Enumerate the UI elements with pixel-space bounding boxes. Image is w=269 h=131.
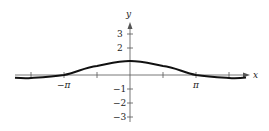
y-tick-label-3: 3 <box>117 29 123 39</box>
y-tick-label-neg2: −2 <box>113 98 126 108</box>
y-axis-label: y <box>125 9 132 19</box>
function-curve <box>15 61 246 78</box>
y-tick-label-neg3: −3 <box>113 112 127 122</box>
y-tick-label-neg1: −1 <box>113 84 126 94</box>
x-axis-label: x <box>253 70 258 80</box>
chart-canvas: y x 3 2 −1 −2 −3 −π π <box>0 0 269 131</box>
x-tick-label-neg-pi: −π <box>57 80 72 90</box>
y-tick-label-2: 2 <box>117 43 123 53</box>
y-axis-arrow-icon <box>128 22 133 29</box>
x-tick-label-pi: π <box>192 80 200 90</box>
